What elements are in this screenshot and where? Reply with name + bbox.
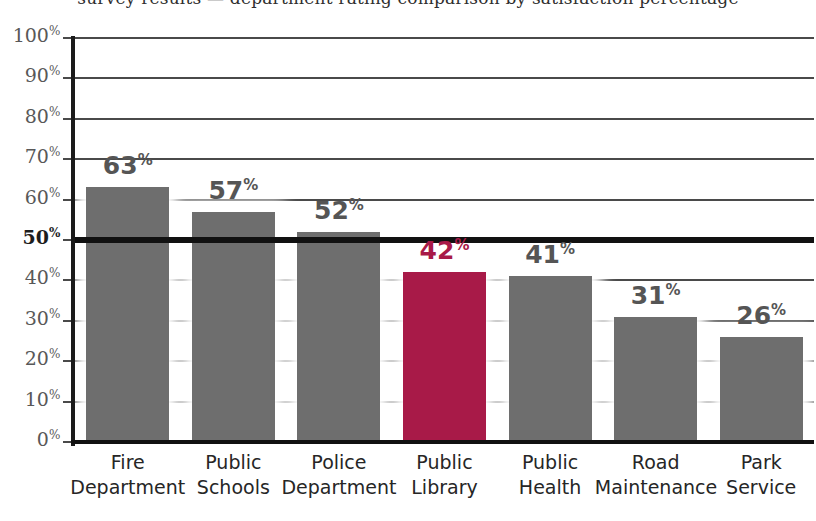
category-line: Park	[700, 450, 816, 475]
percent-sign: %	[454, 236, 469, 254]
x-axis-category-label: PublicSchools	[173, 450, 295, 500]
bar-value-label: 41%	[509, 240, 592, 269]
y-axis-label-30: 30%	[2, 307, 60, 329]
y-axis-label-100: 100%	[2, 24, 60, 46]
percent-sign: %	[666, 281, 681, 299]
percent-sign: %	[138, 151, 153, 169]
category-line: Police	[278, 450, 400, 475]
percent-sign: %	[49, 145, 60, 159]
bar-value-label: 57%	[192, 176, 275, 205]
percent-sign: %	[49, 24, 60, 38]
y-axis-line	[71, 36, 75, 446]
y-axis-label-value: 70	[25, 146, 49, 168]
y-axis-label-40: 40%	[2, 266, 60, 288]
category-line: Library	[384, 475, 506, 500]
y-axis-label-value: 80	[25, 105, 49, 127]
x-axis-category-label: PublicHealth	[489, 450, 611, 500]
gridline-100	[75, 37, 814, 39]
bar-public-health[interactable]	[509, 276, 592, 442]
x-axis-category-label: PoliceDepartment	[278, 450, 400, 500]
percent-sign: %	[560, 240, 575, 258]
bar-value-label: 26%	[720, 301, 803, 330]
bar-value-number: 26	[736, 301, 771, 330]
percent-sign: %	[771, 301, 786, 319]
category-line: Service	[700, 475, 816, 500]
percent-sign: %	[49, 307, 60, 321]
y-axis-label-value: 90	[25, 65, 49, 87]
y-axis-label-value: 40	[25, 267, 49, 289]
x-axis-line	[71, 440, 814, 444]
percent-sign: %	[49, 186, 60, 200]
bar-fire-department[interactable]	[86, 187, 169, 442]
y-axis-label-50: 50%	[2, 226, 60, 248]
category-line: Schools	[173, 475, 295, 500]
gridline-80	[75, 118, 814, 120]
bar-public-schools[interactable]	[192, 212, 275, 442]
percent-sign: %	[243, 176, 258, 194]
bar-public-library[interactable]	[403, 272, 486, 442]
category-line: Department	[278, 475, 400, 500]
bar-police-department[interactable]	[297, 232, 380, 442]
bar-value-label: 63%	[86, 151, 169, 180]
y-axis-label-90: 90%	[2, 64, 60, 86]
plot-area: 0%10%20%30%40%50%60%70%80%90%100%63%Fire…	[0, 0, 816, 521]
x-axis-category-label: RoadMaintenance	[595, 450, 717, 500]
bar-value-number: 57	[208, 176, 243, 205]
x-axis-category-label: PublicLibrary	[384, 450, 506, 500]
bar-value-label: 42%	[403, 236, 486, 265]
percent-sign: %	[49, 64, 60, 78]
category-line: Fire	[67, 450, 189, 475]
gridline-70	[75, 158, 814, 160]
percent-sign: %	[349, 196, 364, 214]
percent-sign: %	[49, 266, 60, 280]
y-axis-label-80: 80%	[2, 105, 60, 127]
category-line: Department	[67, 475, 189, 500]
x-axis-category-label: FireDepartment	[67, 450, 189, 500]
y-axis-label-60: 60%	[2, 186, 60, 208]
category-line: Road	[595, 450, 717, 475]
bar-value-number: 52	[314, 196, 349, 225]
bar-value-number: 42	[420, 237, 455, 266]
bar-value-number: 41	[525, 241, 560, 270]
y-axis-label-value: 60	[25, 186, 49, 208]
percent-sign: %	[49, 226, 60, 240]
percent-sign: %	[49, 347, 60, 361]
y-axis-label-value: 0	[37, 428, 49, 450]
percent-sign: %	[49, 388, 60, 402]
y-axis-label-value: 100	[13, 24, 49, 46]
category-line: Maintenance	[595, 475, 717, 500]
percent-sign: %	[49, 105, 60, 119]
y-axis-label-value: 30	[25, 307, 49, 329]
y-axis-label-value: 10	[25, 388, 49, 410]
y-axis-label-0: 0%	[2, 428, 60, 450]
category-line: Public	[384, 450, 506, 475]
x-axis-category-label: ParkService	[700, 450, 816, 500]
gridline-90	[75, 77, 814, 79]
bar-value-number: 63	[103, 152, 138, 181]
category-line: Health	[489, 475, 611, 500]
y-axis-label-value: 50	[22, 226, 48, 248]
chart-figure: survey results — department rating compa…	[0, 0, 816, 521]
bar-value-number: 31	[631, 281, 666, 310]
bar-park-service[interactable]	[720, 337, 803, 442]
y-axis-label-70: 70%	[2, 145, 60, 167]
bar-road-maintenance[interactable]	[614, 317, 697, 442]
percent-sign: %	[49, 428, 60, 442]
bar-value-label: 31%	[614, 281, 697, 310]
category-line: Public	[489, 450, 611, 475]
y-axis-label-20: 20%	[2, 347, 60, 369]
y-axis-label-value: 20	[25, 348, 49, 370]
bar-value-label: 52%	[297, 196, 380, 225]
category-line: Public	[173, 450, 295, 475]
y-axis-label-10: 10%	[2, 388, 60, 410]
